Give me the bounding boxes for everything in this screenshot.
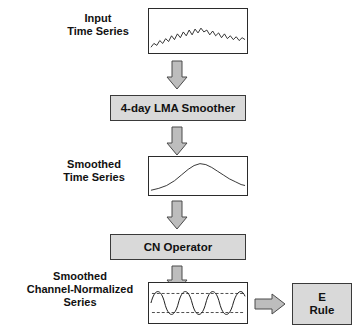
label-smoothed-time-series: Smoothed Time Series [50,158,138,184]
box-lma-smoother: 4-day LMA Smoother [110,95,246,121]
smoothed-time-series-plot [148,156,248,196]
input-series-curve [149,9,247,53]
smoothed-series-curve [149,157,247,195]
arrow-smoothed-to-cn [166,200,188,230]
cn-series-curve [149,283,247,323]
label-input-time-series: Input Time Series [58,12,138,38]
box-e-rule: E Rule [292,283,352,325]
smoothed-channel-normalized-plot [148,282,248,324]
arrow-smoother-to-smoothed [166,126,188,156]
box-cn-operator: CN Operator [110,234,246,260]
label-smoothed-channel-normalized-series: Smoothed Channel-Normalized Series [22,270,138,309]
input-time-series-plot [148,8,248,54]
arrow-cn-series-to-e-rule [254,293,286,315]
flowchart-diagram: Input Time Series 4-day LMA Smoother Smo… [0,0,360,330]
arrow-input-to-smoother [166,60,188,90]
